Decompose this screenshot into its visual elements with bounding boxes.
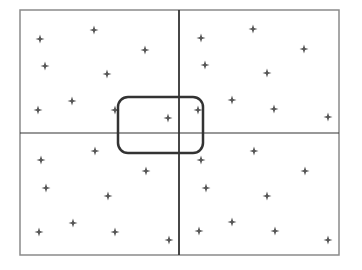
star-icon xyxy=(301,167,310,176)
star-icon xyxy=(300,45,309,54)
star-icon xyxy=(324,113,333,122)
star-icon xyxy=(103,70,112,79)
star-icon xyxy=(142,167,151,176)
star-icon xyxy=(42,184,51,193)
selection-box[interactable] xyxy=(118,97,203,153)
star-icon xyxy=(104,192,113,201)
star-icon xyxy=(41,62,50,71)
star-icon xyxy=(90,26,99,35)
star-icon xyxy=(69,219,78,228)
star-icon xyxy=(263,69,272,78)
star-icon xyxy=(195,227,204,236)
quadrant-top-right xyxy=(194,25,333,122)
star-icon xyxy=(91,147,100,156)
star-icon xyxy=(37,156,46,165)
star-icon xyxy=(68,97,77,106)
star-icon xyxy=(197,34,206,43)
star-icon xyxy=(35,228,44,237)
quadrant-diagram xyxy=(0,0,362,270)
star-icon xyxy=(197,156,206,165)
star-icon xyxy=(164,114,173,123)
star-icon xyxy=(202,184,211,193)
star-icon xyxy=(194,106,203,115)
star-markers xyxy=(34,25,333,245)
star-icon xyxy=(271,227,280,236)
star-icon xyxy=(165,236,174,245)
quadrant-bottom-right xyxy=(195,147,333,245)
star-icon xyxy=(141,46,150,55)
star-icon xyxy=(250,147,259,156)
quadrant-bottom-left xyxy=(35,147,174,245)
star-icon xyxy=(228,218,237,227)
star-icon xyxy=(36,35,45,44)
star-icon xyxy=(249,25,258,34)
star-icon xyxy=(263,192,272,201)
star-icon xyxy=(270,105,279,114)
star-icon xyxy=(324,236,333,245)
star-icon xyxy=(201,61,210,70)
star-icon xyxy=(228,96,237,105)
quadrant-top-left xyxy=(34,26,173,123)
star-icon xyxy=(34,106,43,115)
star-icon xyxy=(111,228,120,237)
